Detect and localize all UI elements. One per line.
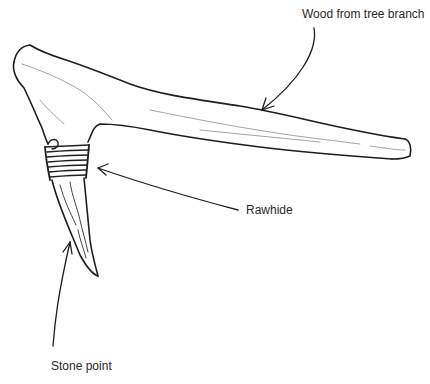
arrow-rawhide [98,168,238,210]
rawhide-binding [45,145,89,180]
leader-arrows [53,28,315,346]
arrow-wood [262,28,315,110]
stone-point [52,178,98,276]
tool-illustration [0,0,430,384]
diagram-canvas: Wood from tree branch Rawhide Stone poin… [0,0,430,384]
label-rawhide: Rawhide [246,204,293,216]
label-wood: Wood from tree branch [302,8,425,20]
arrow-stone [53,242,70,346]
wood-handle [13,45,410,159]
label-stone-point: Stone point [51,360,112,372]
